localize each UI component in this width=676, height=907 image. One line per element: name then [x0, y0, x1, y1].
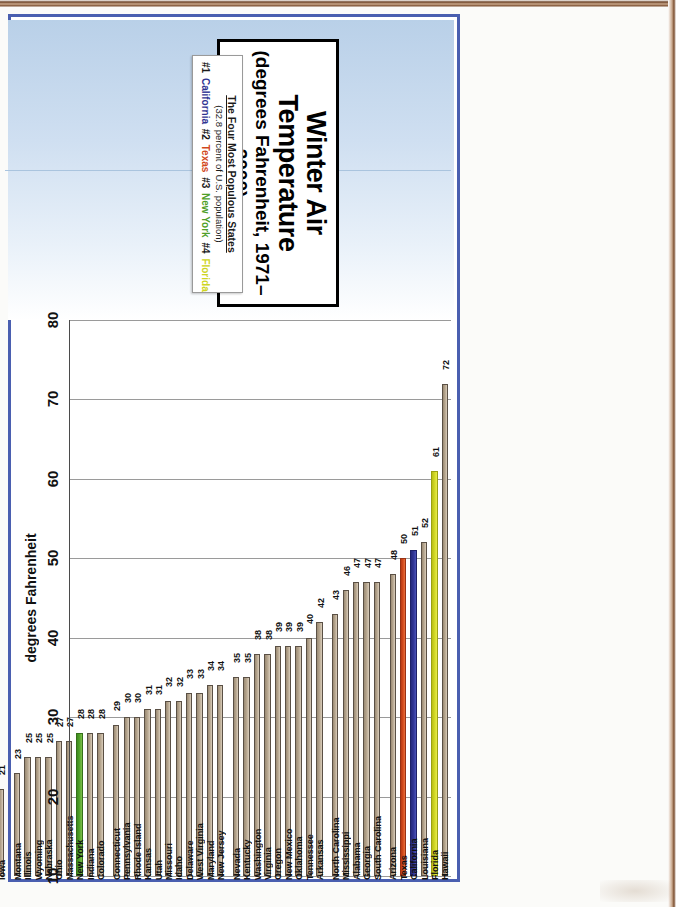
bar-row	[285, 320, 291, 876]
bar-value-label: 39	[276, 622, 282, 642]
legend-rank-1: #1	[200, 62, 211, 73]
bar	[400, 558, 406, 876]
bar-value-label: 32	[177, 677, 183, 697]
slide-page: Winter Air Temperature (degrees Fahrenhe…	[8, 14, 460, 882]
bar-category-label: Oklahoma	[296, 836, 302, 880]
legend-rank-2: #2	[200, 129, 211, 140]
axis-tick-label: 80	[44, 306, 61, 334]
bar-row	[134, 320, 140, 876]
bar	[316, 622, 322, 876]
bar-row	[196, 320, 202, 876]
bar-row	[14, 320, 20, 876]
bar-row	[124, 320, 130, 876]
bar-value-label: 47	[375, 558, 381, 578]
bar-category-label: Hawaii	[442, 851, 448, 880]
legend-state-1: California	[200, 78, 211, 124]
legend-heading: The Four Most Populous States	[225, 61, 238, 287]
bar-category-label: New Jersey	[218, 830, 224, 880]
bar	[421, 542, 427, 876]
bar-value-label: 46	[344, 566, 350, 586]
bar-value-label: 21	[0, 765, 6, 785]
axis-tick-label: 60	[44, 465, 61, 493]
bar-value-label: 40	[307, 614, 313, 634]
bar	[155, 709, 161, 876]
bar-category-label: Indiana	[87, 848, 93, 880]
bar-value-label: 31	[145, 685, 151, 705]
bar-row	[87, 320, 93, 876]
bar-row	[400, 320, 406, 876]
bar-row	[442, 320, 448, 876]
bar-category-label: North Carolina	[333, 817, 339, 880]
bar-value-label: 47	[354, 558, 360, 578]
scan-artifact	[600, 880, 670, 902]
bar	[363, 582, 369, 876]
bar	[264, 654, 270, 876]
bar-value-label: 38	[255, 630, 261, 650]
bar-value-label: 42	[317, 598, 323, 618]
axis-tick-label: 10	[44, 862, 61, 890]
bar-row	[421, 320, 427, 876]
bar-category-label: New Mexico	[286, 828, 292, 880]
bar-category-label: Iowa	[0, 860, 5, 880]
bar-category-label: Texas	[401, 855, 407, 880]
bar-category-label: Utah	[155, 860, 161, 880]
bar-value-label: 23	[15, 749, 21, 769]
bar-category-label: Georgia	[364, 846, 370, 880]
bar-value-label: 51	[411, 526, 417, 546]
bar-value-label: 50	[401, 534, 407, 554]
bar-value-label: 31	[156, 685, 162, 705]
bar-value-label: 38	[265, 630, 271, 650]
bar-category-label: Kentucky	[244, 839, 250, 880]
bar	[390, 574, 396, 876]
bar-chart: 72Hawaii61Florida52Louisiana51California…	[11, 320, 451, 876]
bar-category-label: Arkansas	[317, 839, 323, 880]
bar-category-label: Louisiana	[421, 838, 427, 880]
bar-category-label: Alabama	[353, 842, 359, 880]
bar-value-label: 34	[208, 661, 214, 681]
bar-value-label: 35	[244, 653, 250, 673]
bar-row	[165, 320, 171, 876]
bar-category-label: Washington	[254, 829, 260, 880]
axis-tick-label: 40	[44, 624, 61, 652]
bar-row	[254, 320, 260, 876]
bar-row	[207, 320, 213, 876]
bar-category-label: Connecticut	[114, 828, 120, 880]
legend-state-3: New York	[200, 193, 211, 238]
legend-subheading: (32.8 percent of U.S. population)	[213, 61, 225, 287]
bar-row	[243, 320, 249, 876]
bar-row	[353, 320, 359, 876]
bar-row	[343, 320, 349, 876]
bar	[442, 384, 448, 876]
axis-tick-label: 70	[44, 385, 61, 413]
bar-row	[186, 320, 192, 876]
bar-category-label: West Virginia	[197, 823, 203, 880]
bar-value-label: 48	[391, 550, 397, 570]
bar	[410, 550, 416, 876]
title-line-1: Winter Air Temperature	[274, 48, 329, 298]
bar-value-label: 33	[187, 669, 193, 689]
legend-rank-3: #3	[200, 177, 211, 188]
bar-category-label: Virginia	[265, 847, 271, 880]
bar-value-label: 34	[218, 661, 224, 681]
bar-row	[176, 320, 182, 876]
scan-edge-top	[0, 0, 676, 7]
bar-value-label: 27	[67, 717, 73, 737]
axis-tick-label: 30	[44, 703, 61, 731]
bar-category-label: Mississippi	[343, 831, 349, 880]
bar-row	[0, 320, 5, 876]
rotated-slide-wrapper: Winter Air Temperature (degrees Fahrenhe…	[8, 14, 460, 882]
bar-value-label: 35	[234, 653, 240, 673]
bar-category-label: Idaho	[176, 856, 182, 880]
bar-row	[275, 320, 281, 876]
bar-value-label: 39	[296, 622, 302, 642]
legend-state-2: Texas	[200, 145, 211, 173]
bar-value-label: 72	[443, 360, 449, 380]
bar-row	[264, 320, 270, 876]
bar	[233, 677, 239, 876]
bar-value-label: 25	[46, 733, 52, 753]
bar-category-label: Delaware	[186, 840, 192, 880]
bar-row	[363, 320, 369, 876]
bar-row	[410, 320, 416, 876]
bar-value-label: 47	[364, 558, 370, 578]
bar-row	[295, 320, 301, 876]
